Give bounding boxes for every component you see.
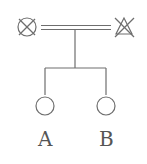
child-b-circle-icon bbox=[97, 97, 115, 115]
parent-left-crossed-circle-icon bbox=[18, 18, 36, 36]
parent-right-crossed-triangle-icon bbox=[115, 18, 134, 37]
child-b-label: B bbox=[99, 127, 114, 151]
child-a-label: A bbox=[38, 127, 52, 151]
union-double-line bbox=[41, 26, 111, 30]
child-a-circle-icon bbox=[36, 97, 54, 115]
pedigree-diagram bbox=[0, 0, 147, 164]
